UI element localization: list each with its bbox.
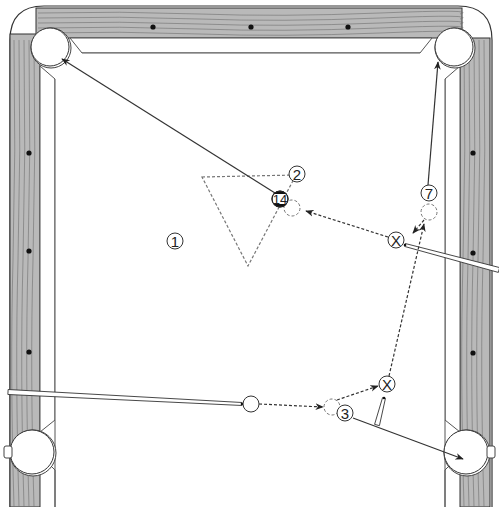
diamond-marker	[26, 248, 31, 253]
cue-position-x-lower-label: X	[382, 376, 392, 393]
diamond-marker	[150, 24, 155, 29]
cue-ball	[243, 396, 259, 412]
diamond-marker	[345, 24, 350, 29]
ball-1-label: 1	[171, 233, 179, 250]
diamond-marker	[470, 250, 475, 255]
diamond-marker	[470, 350, 475, 355]
bottom-left-pocket	[10, 430, 56, 476]
diamond-marker	[248, 24, 253, 29]
ball-14: 14	[272, 191, 288, 207]
ball-7-label: 7	[425, 185, 433, 202]
ball-2-label: 2	[293, 166, 301, 183]
top-left-pocket	[31, 28, 71, 68]
ghost-ball-7	[421, 204, 437, 220]
ball-14-label: 14	[273, 192, 287, 207]
bottom-right-pocket	[444, 430, 490, 476]
cue-position-x-upper-label: X	[391, 232, 401, 249]
top-right-pocket	[435, 28, 475, 68]
diamond-marker	[26, 349, 31, 354]
diamond-marker	[26, 150, 31, 155]
diamond-marker	[470, 150, 475, 155]
table-canvas: 121473 XX	[0, 0, 499, 507]
cloth	[40, 38, 460, 507]
ball-3-label: 3	[341, 405, 349, 422]
billiards-table-diagram: 121473 XX	[0, 0, 499, 507]
